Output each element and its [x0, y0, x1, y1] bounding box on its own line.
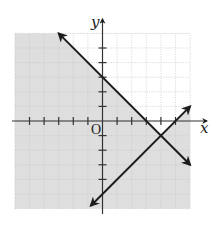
- coordinate-graph: y x O: [0, 0, 213, 225]
- x-axis-label: x: [200, 119, 209, 137]
- y-axis-label: y: [90, 13, 100, 31]
- origin-label: O: [91, 122, 101, 137]
